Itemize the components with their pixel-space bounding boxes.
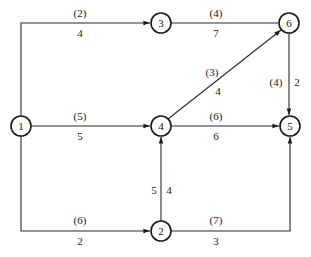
edge-1-2-weight: 2 [77, 235, 83, 247]
network-diagram: (2) 4 (5) 5 (6) 2 (4) 7 (3) 4 (6) 6 (4) … [0, 0, 311, 257]
edge-1-4-weight: 5 [77, 130, 83, 142]
edge-3-6-weight: 7 [213, 27, 219, 39]
node-6-label: 6 [286, 17, 292, 29]
edge-1-3-weight: 4 [77, 27, 83, 39]
node-1: 1 [11, 116, 31, 136]
edge-1-4: (5) 5 [31, 110, 150, 142]
node-1-label: 1 [18, 120, 24, 132]
node-3: 3 [151, 13, 171, 33]
node-3-label: 3 [158, 17, 164, 29]
node-4: 4 [151, 116, 171, 136]
edge-1-2-capacity: (6) [74, 214, 87, 227]
edge-1-2: (6) 2 [21, 136, 150, 247]
edge-3-6: (4) 7 [171, 7, 278, 39]
edge-4-6-capacity: (3) [206, 66, 219, 79]
edge-4-5-capacity: (6) [210, 110, 223, 123]
edge-4-6: (3) 4 [168, 30, 281, 119]
edge-4-6-weight: 4 [215, 85, 221, 97]
node-6: 6 [279, 13, 299, 33]
edge-3-6-capacity: (4) [210, 7, 223, 20]
edge-6-5-capacity: (4) [270, 76, 283, 89]
edge-6-5: (4) 2 [270, 33, 300, 115]
node-4-label: 4 [158, 120, 164, 132]
edge-6-5-weight: 2 [294, 76, 300, 88]
edge-1-3: (2) 4 [21, 7, 150, 116]
edge-2-5: (7) 3 [171, 137, 290, 247]
edge-2-5-capacity: (7) [210, 214, 223, 227]
edge-2-4-left-label: 5 [151, 184, 157, 196]
node-2: 2 [151, 221, 171, 241]
edge-2-4: 5 4 [151, 137, 172, 221]
edge-4-5: (6) 6 [171, 110, 279, 142]
edge-4-5-weight: 6 [213, 130, 219, 142]
edge-1-3-capacity: (2) [74, 7, 87, 20]
edge-2-4-right-label: 4 [166, 184, 172, 196]
edge-1-4-capacity: (5) [74, 110, 87, 123]
node-5: 5 [280, 116, 300, 136]
node-2-label: 2 [158, 225, 164, 237]
node-5-label: 5 [287, 120, 293, 132]
edge-2-5-weight: 3 [213, 235, 219, 247]
